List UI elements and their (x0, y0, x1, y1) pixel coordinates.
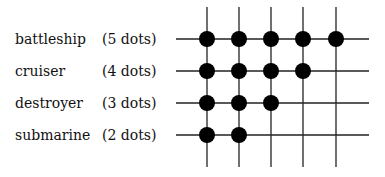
dot-destroyer (231, 95, 247, 111)
dot-cruiser (263, 63, 279, 79)
dot-submarine (199, 127, 215, 143)
dot-battleship (231, 31, 247, 47)
grid-lines (176, 7, 369, 167)
dot-battleship (328, 31, 344, 47)
dot-grid (0, 0, 385, 177)
dot-cruiser (199, 63, 215, 79)
dot-battleship (263, 31, 279, 47)
dot-destroyer (199, 95, 215, 111)
dot-submarine (231, 127, 247, 143)
dot-cruiser (231, 63, 247, 79)
dot-cruiser (295, 63, 311, 79)
dot-battleship (295, 31, 311, 47)
dot-battleship (199, 31, 215, 47)
dot-destroyer (263, 95, 279, 111)
